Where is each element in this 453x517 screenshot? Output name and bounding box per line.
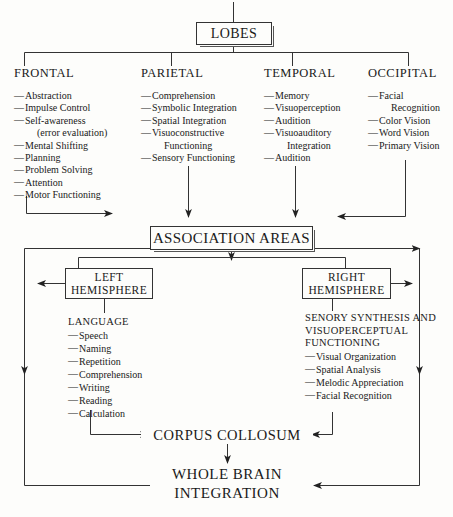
right-hemisphere-heading-line3: FUNCTIONING [305,337,436,350]
lobe-list-parietal: —Comprehension —Symbolic Integration —Sp… [141,90,237,164]
list-item-text: Abstraction [25,90,72,101]
lobe-title-parietal: PARIETAL [141,66,237,81]
node-association-areas-label: ASSOCIATION AREAS [153,230,310,247]
list-item: —Audition [264,115,341,127]
list-item: —Motor Functioning [14,189,107,201]
dash-glyph: — [141,127,151,139]
right-hemisphere-line2: HEMISPHERE [308,284,384,297]
list-item: —Comprehension [141,90,237,102]
list-item: —Planning [14,152,107,164]
list-item: —Spatial Integration [141,115,237,127]
list-item-text: Impulse Control [25,102,90,113]
dash-glyph: — [68,341,78,354]
lobe-list-temporal: —Memory —Visuoperception —Audition —Visu… [264,90,341,164]
left-hemisphere-detail: LANGUAGE —Speech —Naming —Repetition —Co… [68,316,142,420]
list-item-text: Writing [79,382,110,393]
right-hemisphere-heading-line1: SENORY SYNTHESIS AND [305,312,436,325]
dash-glyph: — [368,90,378,102]
list-item-text: Visual Organization [316,351,396,362]
list-item-text: Attention [25,177,63,188]
list-item: —Visual Organization [305,350,436,363]
list-item-text: Reading [79,395,112,406]
node-corpus-collosum[interactable]: CORPUS COLLOSUM [141,427,313,444]
dash-glyph: — [264,90,274,102]
list-item-text: Self-awareness [25,115,86,126]
right-hemisphere-detail: SENORY SYNTHESIS AND VISUOPERCEPTUAL FUN… [305,312,436,402]
node-whole-brain-integration[interactable]: WHOLE BRAIN INTEGRATION [150,465,304,503]
list-item-text: Visuoperception [275,102,341,113]
dash-glyph: — [68,367,78,380]
list-item: —Color Vision [368,115,440,127]
list-item: —Abstraction [14,90,107,102]
right-hemisphere-line1: RIGHT [328,271,365,284]
list-item: —Mental Shifting [14,140,107,152]
list-item: —Visuoperception [264,102,341,114]
dash-glyph: — [305,349,315,362]
list-item-text: Facial [379,90,403,101]
list-item-text: Problem Solving [25,164,93,175]
diagram-canvas: LOBES FRONTAL —Abstraction —Impulse Cont… [0,0,453,517]
dash-glyph: — [141,114,151,126]
lobe-title-temporal: TEMPORAL [264,66,341,81]
list-item: —Self-awareness(error evaluation) [14,115,107,140]
list-item: —Facial Recognition [305,389,436,402]
list-item: —Writing [68,381,142,394]
list-item-text: Comprehension [152,90,215,101]
list-item: —VisuoconstructiveFunctioning [141,127,237,152]
dash-glyph: — [305,362,315,375]
list-item-text: Color Vision [379,115,430,126]
list-item-text: Facial Recognition [316,390,392,401]
list-item-text: Audition [275,152,311,163]
lobe-column-frontal: FRONTAL —Abstraction —Impulse Control —S… [14,66,107,202]
list-item-continuation: Integration [275,140,341,152]
list-item: —Problem Solving [14,164,107,176]
dash-glyph: — [141,102,151,114]
list-item: —Word Vision [368,127,440,139]
node-lobes[interactable]: LOBES [196,22,272,45]
lobe-list-occipital: —FacialRecognition —Color Vision —Word V… [368,90,440,152]
left-hemisphere-heading: LANGUAGE [68,316,142,329]
list-item-text: Sensory Functioning [152,152,235,163]
list-item-text: Repetition [79,356,121,367]
list-item: —Impulse Control [14,102,107,114]
dash-glyph: — [14,114,24,126]
list-item-text: Spatial Analysis [316,364,381,375]
dash-glyph: — [264,127,274,139]
list-item-text: Word Vision [379,127,429,138]
list-item-continuation: Recognition [379,102,440,114]
list-item-text: Calculation [79,408,125,419]
list-item-text: Spatial Integration [152,115,226,126]
node-association-areas[interactable]: ASSOCIATION AREAS [150,226,313,250]
node-lobes-label: LOBES [211,26,257,42]
dash-glyph: — [68,406,78,419]
lobe-column-occipital: OCCIPITAL —FacialRecognition —Color Visi… [368,66,440,152]
dash-glyph: — [14,189,24,201]
dash-glyph: — [264,114,274,126]
dash-glyph: — [368,139,378,151]
dash-glyph: — [14,152,24,164]
list-item-text: Comprehension [79,369,142,380]
list-item: —Comprehension [68,368,142,381]
dash-glyph: — [68,354,78,367]
dash-glyph: — [68,380,78,393]
list-item-text: Visuoauditory [275,127,332,138]
list-item: —Repetition [68,355,142,368]
dash-glyph: — [141,90,151,102]
dash-glyph: — [264,152,274,164]
list-item-text: Mental Shifting [25,140,88,151]
dash-glyph: — [368,114,378,126]
dash-glyph: — [68,328,78,341]
list-item: —Symbolic Integration [141,102,237,114]
dash-glyph: — [264,102,274,114]
list-item-text: Visuoconstructive [152,127,224,138]
dash-glyph: — [305,375,315,388]
dash-glyph: — [141,152,151,164]
dash-glyph: — [368,127,378,139]
corpus-collosum-label: CORPUS COLLOSUM [153,427,300,443]
node-left-hemisphere[interactable]: LEFT HEMISPHERE [65,268,153,299]
list-item-text: Melodic Appreciation [316,377,403,388]
list-item-text: Naming [79,343,111,354]
node-right-hemisphere[interactable]: RIGHT HEMISPHERE [302,268,391,299]
list-item: —FacialRecognition [368,90,440,115]
lobe-title-frontal: FRONTAL [14,66,107,81]
